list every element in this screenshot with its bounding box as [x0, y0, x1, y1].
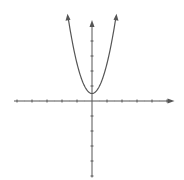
curve-left-arrow-icon	[66, 14, 71, 21]
parabola-graph	[0, 0, 184, 180]
x-axis-arrow-icon	[168, 99, 175, 104]
curve-right-arrow-icon	[114, 14, 119, 21]
axes	[14, 20, 175, 178]
